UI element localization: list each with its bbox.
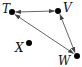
- node-label-t: T: [2, 2, 11, 16]
- node-label-x: X: [14, 41, 24, 55]
- node-v: [55, 8, 61, 14]
- edge-t-w: [15, 15, 74, 54]
- edge-v-w: [60, 15, 75, 53]
- node-label-w: W: [58, 54, 72, 67]
- graph-diagram: T V X W: [0, 0, 82, 67]
- edge-t-v: [16, 11, 55, 12]
- node-x: [26, 40, 32, 46]
- node-w: [74, 53, 80, 59]
- node-label-v: V: [63, 1, 73, 15]
